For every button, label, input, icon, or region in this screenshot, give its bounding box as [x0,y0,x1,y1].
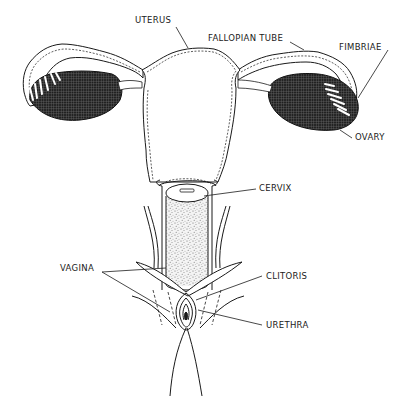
label-ovary: OVARY [355,133,385,142]
fallopian-tube-leader [290,42,304,50]
reproductive-anatomy-diagram [0,0,409,419]
label-urethra: URETHRA [266,321,309,330]
ovary-leader [340,130,352,138]
label-cervix: CERVIX [259,184,292,193]
external-genitalia [132,293,244,396]
label-vagina: VAGINA [60,264,94,273]
label-fallopian-tube: FALLOPIAN TUBE [208,34,283,43]
uterus-leader [176,27,188,48]
urethra-leader [198,310,262,325]
cervix [166,184,208,290]
label-uterus: UTERUS [135,16,171,25]
uterus [142,48,240,182]
fimbriae-leader [358,50,388,98]
label-clitoris: CLITORIS [266,272,307,281]
left-ovary [30,71,142,120]
label-fimbriae: FIMBRIAE [339,43,382,52]
